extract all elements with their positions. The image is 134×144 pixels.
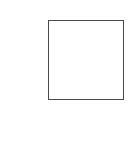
image-canvas [0,0,134,144]
empty-margin-bottom [0,100,134,144]
square-interior [49,21,123,99]
empty-margin-top [0,0,134,20]
square-outline-shape [48,20,124,100]
empty-margin-left [0,20,48,100]
empty-margin-right [124,20,134,100]
